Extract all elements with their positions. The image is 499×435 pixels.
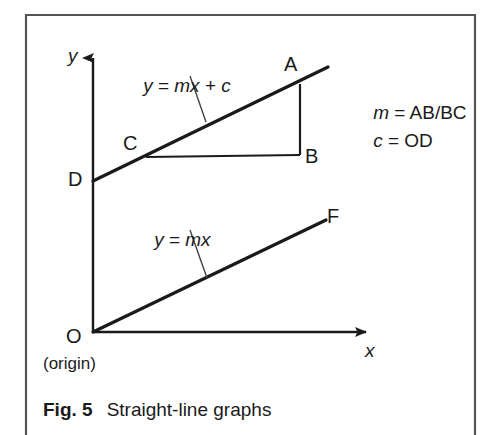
point-label-d: D	[68, 169, 82, 189]
origin-point-label: O	[66, 326, 82, 346]
caption-figure-title: Straight-line graphs	[107, 399, 272, 421]
y-axis-label: y	[68, 46, 78, 65]
origin-note-label: (origin)	[43, 355, 96, 372]
point-label-c: C	[123, 133, 137, 153]
point-label-a: A	[284, 54, 297, 74]
equation-lower-mx: mx	[185, 229, 210, 250]
equation-label-upper: y = mx + c	[122, 57, 231, 114]
note-intercept-value: OD	[404, 130, 433, 151]
triangle-run-cb	[146, 155, 300, 157]
note-intercept: c = OD	[352, 112, 433, 169]
point-label-b: B	[305, 146, 318, 166]
equation-lower-equals: =	[164, 229, 186, 250]
x-axis-label: x	[365, 341, 375, 360]
caption-figure-number: Fig. 5	[43, 399, 93, 421]
equation-upper-plus: +	[200, 75, 222, 96]
equation-upper-equals: =	[153, 75, 175, 96]
note-intercept-equals: =	[383, 130, 405, 151]
equation-lower-y: y	[154, 229, 164, 250]
figure-container: y x O (origin) A B C D F y = mx + c y = …	[0, 0, 499, 435]
equation-upper-c: c	[221, 75, 231, 96]
point-label-f: F	[327, 206, 339, 226]
equation-label-lower: y = mx	[133, 211, 211, 268]
equation-upper-y: y	[143, 75, 153, 96]
note-intercept-symbol: c	[373, 130, 383, 151]
equation-upper-mx: mx	[174, 75, 199, 96]
figure-caption: Fig. 5 Straight-line graphs	[43, 399, 271, 421]
